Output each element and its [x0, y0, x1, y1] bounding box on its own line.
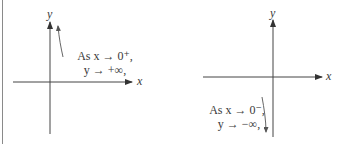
caption-line-1: As x → 0⁺,	[77, 49, 133, 63]
caption-line-2: y → +∞,	[84, 63, 126, 77]
y-axis-label: y	[269, 6, 276, 20]
x-axis-label: x	[325, 69, 332, 83]
caption-line-2: y → −∞,	[218, 117, 260, 131]
x-axis-label: x	[136, 74, 143, 88]
left-panel: y x As x → 0⁺, y → +∞,	[13, 7, 143, 134]
asymptote-diagram: y x As x → 0⁺, y → +∞, y x As x → 0⁻, y …	[0, 0, 342, 144]
right-panel: y x As x → 0⁻, y → −∞,	[203, 6, 332, 137]
curve-arrow-up	[58, 26, 63, 57]
y-axis-label: y	[46, 7, 53, 21]
caption-line-1: As x → 0⁻,	[209, 103, 265, 117]
